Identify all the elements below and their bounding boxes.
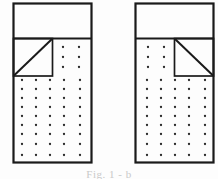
right-panel-outer-rect <box>136 4 214 163</box>
left-panel <box>14 4 92 163</box>
left-panel-outer-rect <box>14 4 92 163</box>
right-panel <box>136 4 214 163</box>
left-panel-diagonal <box>14 39 52 76</box>
left-panel-dot-field <box>21 46 81 156</box>
right-panel-diagonal <box>175 39 213 76</box>
figure-container: Fig. 1 - b <box>0 0 218 179</box>
right-panel-dot-field <box>146 46 206 156</box>
figure-caption: Fig. 1 - b <box>0 169 218 179</box>
diagram-canvas <box>0 0 218 179</box>
